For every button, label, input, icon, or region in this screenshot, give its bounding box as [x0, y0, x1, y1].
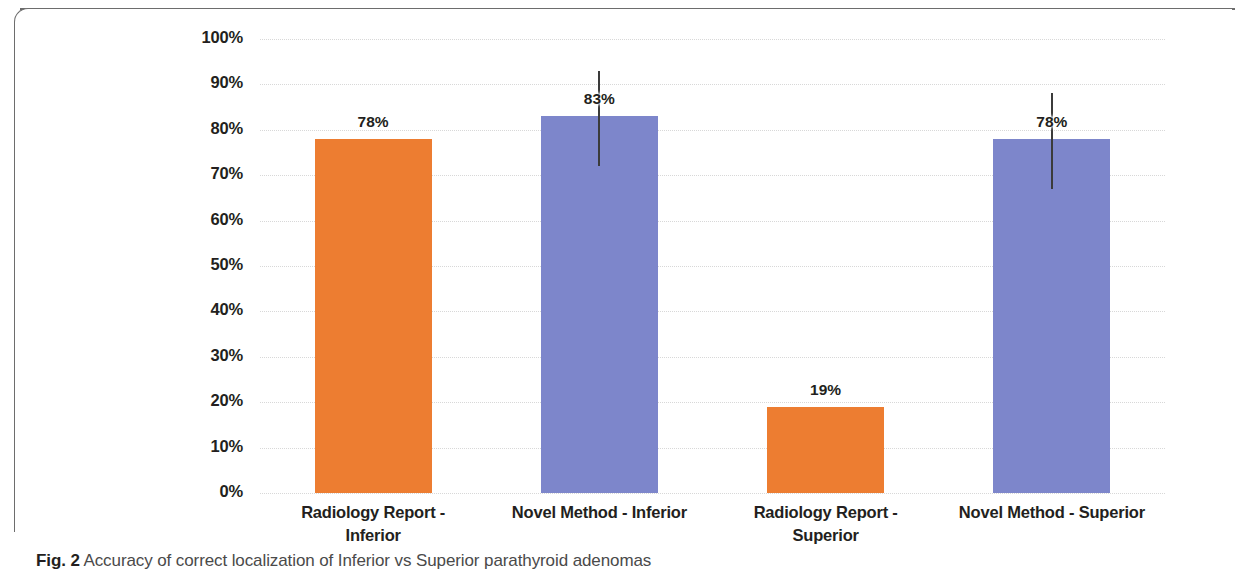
bar-chart: 0%10%20%30%40%50%60%70%80%90%100% 78%83%… [15, 9, 1235, 545]
y-tick-label: 20% [183, 391, 243, 410]
y-tick-label: 60% [183, 210, 243, 229]
bar-value-label: 83% [541, 90, 658, 108]
bar [315, 139, 432, 493]
y-tick-label: 10% [183, 437, 243, 456]
bar [993, 139, 1110, 493]
figure-frame: 0%10%20%30%40%50%60%70%80%90%100% 78%83%… [14, 8, 1232, 532]
bar-value-label: 78% [993, 113, 1110, 131]
figure-number: Fig. 2 [36, 551, 80, 570]
gridline [260, 493, 1165, 495]
y-tick-label: 0% [183, 482, 243, 501]
y-tick-label: 80% [183, 119, 243, 138]
gridline [260, 84, 1165, 86]
x-tick-label: Radiology Report -Superior [713, 501, 939, 547]
y-tick-label: 70% [183, 164, 243, 183]
plot-area: 78%83%19%78% [260, 39, 1165, 493]
error-bar [1051, 93, 1053, 188]
x-tick-label: Novel Method - Superior [939, 501, 1165, 524]
gridline [260, 39, 1165, 41]
bar [541, 116, 658, 493]
figure-caption: Fig. 2 Accuracy of correct localization … [36, 551, 1216, 571]
x-tick-label: Radiology Report -Inferior [260, 501, 486, 547]
y-tick-label: 30% [183, 346, 243, 365]
y-tick-label: 90% [183, 73, 243, 92]
y-tick-label: 100% [183, 28, 243, 47]
bar [767, 407, 884, 493]
y-tick-label: 40% [183, 300, 243, 319]
y-tick-label: 50% [183, 255, 243, 274]
x-tick-label: Novel Method - Inferior [486, 501, 712, 524]
bar-value-label: 19% [767, 381, 884, 399]
bar-value-label: 78% [315, 113, 432, 131]
error-bar [598, 71, 600, 166]
figure-caption-text: Accuracy of correct localization of Infe… [80, 551, 651, 570]
